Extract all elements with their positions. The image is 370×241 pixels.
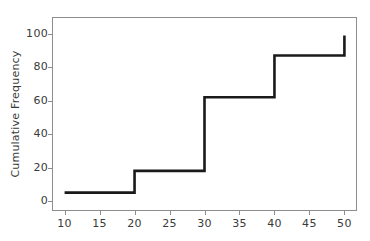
chart-screenshot: Cumulative Frequency 020406080100 101520… bbox=[0, 0, 370, 241]
x-axis-tick-label: 30 bbox=[190, 217, 220, 230]
y-axis-tick-label: 40 bbox=[18, 127, 48, 140]
x-axis-tick-mark bbox=[65, 211, 66, 215]
x-axis-tick-label: 45 bbox=[294, 217, 324, 230]
y-axis-tick-label: 0 bbox=[18, 194, 48, 207]
x-axis-tick-label: 40 bbox=[259, 217, 289, 230]
y-axis-tick-label: 20 bbox=[18, 161, 48, 174]
x-axis-tick-label: 20 bbox=[120, 217, 150, 230]
x-axis-tick-label: 25 bbox=[155, 217, 185, 230]
x-axis-tick-mark bbox=[309, 211, 310, 215]
x-axis-tick-mark bbox=[274, 211, 275, 215]
step-line-series bbox=[52, 17, 357, 211]
y-axis-label: Cumulative Frequency bbox=[9, 17, 25, 211]
x-axis-tick-mark bbox=[344, 211, 345, 215]
x-axis-tick-mark bbox=[205, 211, 206, 215]
y-axis-tick-label: 80 bbox=[18, 60, 48, 73]
x-axis-tick-mark bbox=[100, 211, 101, 215]
x-axis-tick-mark bbox=[170, 211, 171, 215]
x-axis-tick-mark bbox=[239, 211, 240, 215]
cumulative-frequency-step-path bbox=[65, 35, 345, 192]
x-axis-tick-label: 35 bbox=[224, 217, 254, 230]
x-axis-tick-label: 50 bbox=[329, 217, 359, 230]
y-axis-tick-label: 100 bbox=[18, 27, 48, 40]
x-axis-tick-mark bbox=[135, 211, 136, 215]
x-axis-tick-label: 10 bbox=[50, 217, 80, 230]
x-axis-tick-label: 15 bbox=[85, 217, 115, 230]
y-axis-tick-label: 60 bbox=[18, 94, 48, 107]
